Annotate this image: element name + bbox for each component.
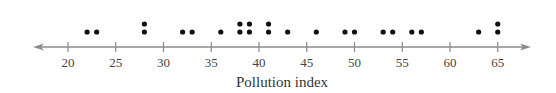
data-dot (247, 21, 252, 26)
data-dot (142, 29, 147, 34)
data-dot (342, 29, 347, 34)
tick-label: 45 (300, 55, 313, 70)
data-dot (419, 29, 424, 34)
data-dot (94, 29, 99, 34)
data-dot (180, 29, 185, 34)
data-dot (237, 29, 242, 34)
x-axis-title: Pollution index (236, 74, 329, 90)
tick-label: 30 (157, 55, 170, 70)
data-dot (390, 29, 395, 34)
x-axis (33, 44, 531, 51)
data-dot (218, 29, 223, 34)
data-dot (247, 29, 252, 34)
tick-label: 65 (491, 55, 504, 70)
data-dot (381, 29, 386, 34)
data-dot (85, 29, 90, 34)
tick-label: 20 (62, 55, 75, 70)
data-dot (476, 29, 481, 34)
tick-group: 20253035404550556065 (62, 42, 505, 70)
data-dot (285, 29, 290, 34)
data-dot (266, 21, 271, 26)
data-dot (314, 29, 319, 34)
tick-label: 40 (253, 55, 266, 70)
tick-label: 50 (348, 55, 361, 70)
tick-label: 55 (396, 55, 409, 70)
tick-label: 60 (444, 55, 457, 70)
data-dot (266, 29, 271, 34)
tick-label: 35 (205, 55, 218, 70)
data-dot (409, 29, 414, 34)
data-dot (237, 21, 242, 26)
data-dot (352, 29, 357, 34)
tick-label: 25 (109, 55, 122, 70)
data-dot (495, 29, 500, 34)
data-dot (142, 21, 147, 26)
data-dot (190, 29, 195, 34)
dot-plot: 20253035404550556065 Pollution index (0, 0, 556, 93)
dot-group (85, 21, 501, 34)
data-dot (495, 21, 500, 26)
